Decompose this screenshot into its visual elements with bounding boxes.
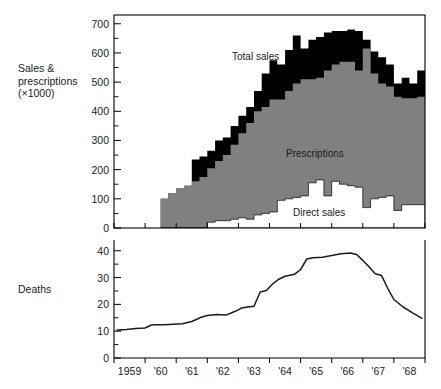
- axis-tick-label: '67: [372, 365, 386, 377]
- deaths-panel: 010203040: [97, 240, 425, 364]
- stacked-area-series: [161, 30, 425, 228]
- axis-tick-label: '60: [154, 365, 168, 377]
- axis-tick-label: 100: [91, 193, 109, 205]
- axis-tick-label: 0: [103, 222, 109, 234]
- axis-tick-label: 1959: [118, 365, 142, 377]
- deaths-axis-label: Deaths: [18, 283, 51, 296]
- axis-tick-label: 200: [91, 164, 109, 176]
- axis-tick-label: 700: [91, 18, 109, 30]
- annotation-total-sales: Total sales: [232, 51, 279, 62]
- axis-tick-label: '62: [216, 365, 230, 377]
- chart-svg: 0100200300400500600700 Total sales Presc…: [0, 0, 441, 389]
- sales-axis-label: Sales & prescriptions (×1000): [18, 62, 78, 100]
- axis-tick-label: 400: [91, 105, 109, 117]
- axis-tick-label: 600: [91, 47, 109, 59]
- axis-tick-label: 40: [97, 245, 109, 257]
- deaths-line-series: [117, 253, 422, 330]
- axis-tick-label: '64: [278, 365, 292, 377]
- axis-tick-label: '61: [185, 365, 199, 377]
- axis-tick-label: 300: [91, 134, 109, 146]
- axis-tick-label: '68: [403, 365, 417, 377]
- axis-tick-label: 20: [97, 298, 109, 310]
- deaths-x-ticks: [114, 358, 425, 363]
- deaths-plot-frame: [114, 240, 425, 358]
- sales-y-ticks: 0100200300400500600700: [91, 18, 121, 234]
- annotation-prescriptions: Prescriptions: [286, 148, 344, 159]
- axis-tick-label: '65: [309, 365, 323, 377]
- axis-tick-label: 500: [91, 76, 109, 88]
- figure-container: Sales & prescriptions (×1000) Deaths 010…: [0, 0, 441, 389]
- deaths-y-ticks: 010203040: [97, 245, 121, 364]
- annotation-direct-sales: Direct sales: [293, 207, 345, 218]
- axis-tick-label: '66: [340, 365, 354, 377]
- axis-tick-label: '63: [247, 365, 261, 377]
- axis-tick-label: 30: [97, 272, 109, 284]
- x-axis-labels: 1959'60'61'62'63'64'65'66'67'68: [118, 365, 417, 377]
- axis-tick-label: 0: [103, 352, 109, 364]
- axis-tick-label: 10: [97, 325, 109, 337]
- sales-panel: 0100200300400500600700 Total sales Presc…: [91, 15, 425, 234]
